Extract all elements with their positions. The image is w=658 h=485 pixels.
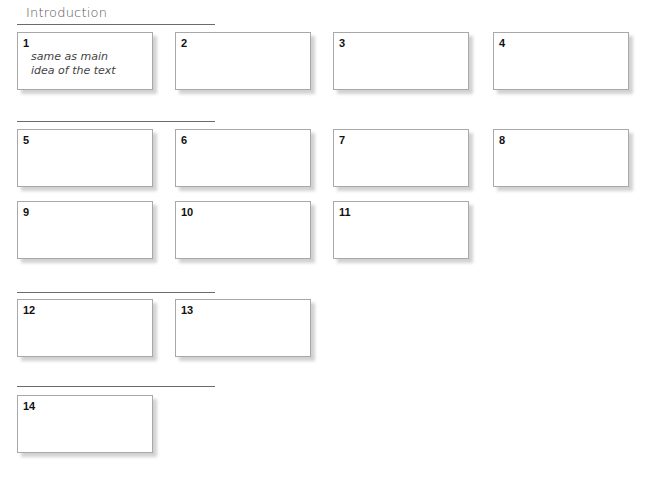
note-card-8[interactable]: 8 — [493, 129, 629, 187]
note-card-12[interactable]: 12 — [17, 299, 153, 357]
card-number: 7 — [339, 134, 345, 146]
note-card-13[interactable]: 13 — [175, 299, 311, 357]
card-number: 2 — [181, 37, 187, 49]
note-card-6[interactable]: 6 — [175, 129, 311, 187]
note-card-10[interactable]: 10 — [175, 201, 311, 259]
section-rule — [17, 386, 215, 387]
card-number: 6 — [181, 134, 187, 146]
note-card-5[interactable]: 5 — [17, 129, 153, 187]
card-number: 14 — [23, 400, 35, 412]
note-card-4[interactable]: 4 — [493, 32, 629, 90]
note-card-14[interactable]: 14 — [17, 395, 153, 453]
card-number: 10 — [181, 206, 193, 218]
section-rule — [17, 292, 215, 293]
note-card-1[interactable]: 1 same as main idea of the text — [17, 32, 153, 90]
note-card-11[interactable]: 11 — [333, 201, 469, 259]
note-card-9[interactable]: 9 — [17, 201, 153, 259]
card-number: 12 — [23, 304, 35, 316]
card-number: 8 — [499, 134, 505, 146]
card-number: 1 — [23, 37, 29, 49]
card-note: same as main idea of the text — [31, 50, 116, 78]
card-number: 5 — [23, 134, 29, 146]
card-note-line: idea of the text — [31, 64, 116, 78]
section-rule — [17, 24, 215, 25]
section-rule — [17, 121, 215, 122]
card-note-line: same as main — [31, 50, 116, 64]
card-number: 13 — [181, 304, 193, 316]
card-number: 11 — [339, 206, 351, 218]
note-card-7[interactable]: 7 — [333, 129, 469, 187]
note-card-3[interactable]: 3 — [333, 32, 469, 90]
section-label-introduction: Introduction — [26, 5, 107, 20]
card-number: 3 — [339, 37, 345, 49]
note-card-2[interactable]: 2 — [175, 32, 311, 90]
card-number: 9 — [23, 206, 29, 218]
card-number: 4 — [499, 37, 505, 49]
